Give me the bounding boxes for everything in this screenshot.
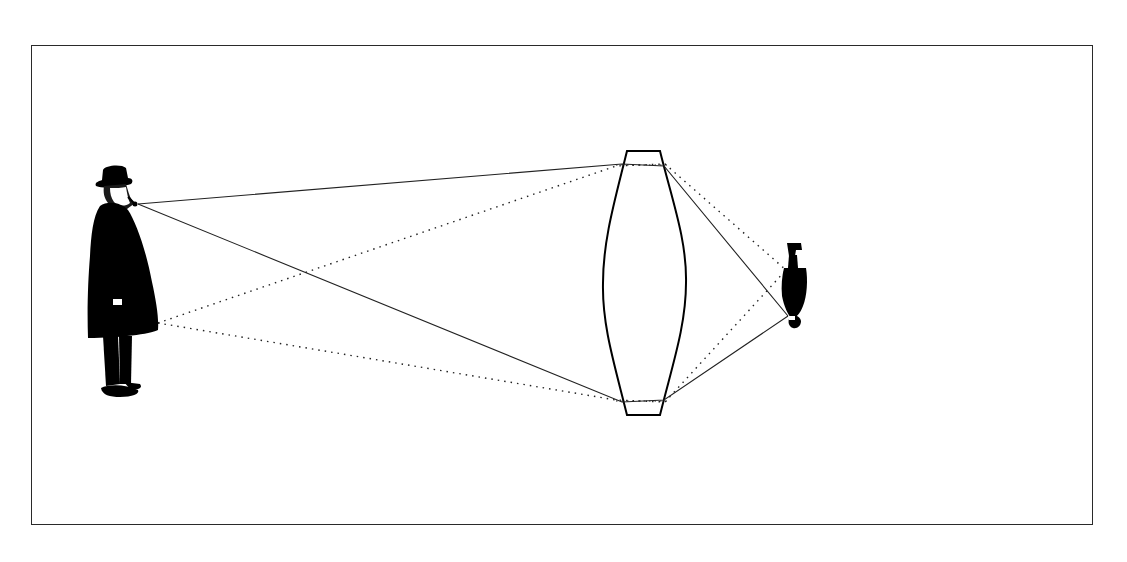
lens-chord-lines xyxy=(616,165,668,401)
lens-icon xyxy=(603,151,686,415)
man-silhouette-icon xyxy=(88,166,159,397)
lens-diagram: Image formation by a converging lens xyxy=(0,0,1127,562)
inverted-image-icon xyxy=(782,243,807,328)
solid-rays xyxy=(138,164,788,402)
